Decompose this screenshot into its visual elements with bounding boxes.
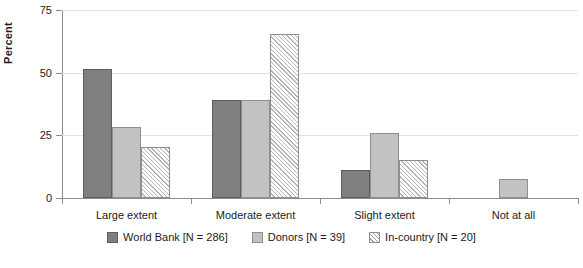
legend-label: World Bank [N = 286] (123, 231, 228, 243)
bar (83, 69, 112, 198)
x-category-label: Moderate extent (191, 209, 320, 221)
x-tick-mark (449, 198, 450, 204)
legend-label: Donors [N = 39] (268, 231, 345, 243)
x-tick-mark (320, 198, 321, 204)
bar (212, 100, 241, 198)
y-tick-label: 75 (28, 5, 52, 16)
legend-item[interactable]: World Bank [N = 286] (107, 231, 228, 243)
x-tick-mark (191, 198, 192, 204)
x-category-label: Not at all (449, 209, 578, 221)
bar (112, 127, 141, 198)
y-tick-label: 50 (28, 68, 52, 79)
legend-swatch-icon (107, 232, 118, 243)
legend-item[interactable]: In-country [N = 20] (369, 231, 476, 243)
legend-swatch-icon (252, 232, 263, 243)
y-axis-title: Percent (2, 0, 18, 88)
gridline-50 (62, 73, 578, 74)
x-category-label: Large extent (62, 209, 191, 221)
plot-area (62, 10, 578, 198)
legend-item[interactable]: Donors [N = 39] (252, 231, 345, 243)
chart-legend: World Bank [N = 286]Donors [N = 39]In-co… (0, 231, 583, 243)
legend-swatch-icon (369, 232, 380, 243)
x-tick-mark (62, 198, 63, 204)
x-tick-mark (578, 198, 579, 204)
legend-label: In-country [N = 20] (385, 231, 476, 243)
bar (270, 34, 299, 198)
bar (141, 147, 170, 198)
bar (499, 179, 528, 198)
y-tick-label: 0 (28, 193, 52, 204)
bar (341, 170, 370, 198)
bar-chart-figure: Percent 0255075 Large extentModerate ext… (0, 0, 583, 268)
x-category-label: Slight extent (320, 209, 449, 221)
bar (399, 160, 428, 198)
bar (241, 100, 270, 198)
y-tick-label: 25 (28, 130, 52, 141)
bar (370, 133, 399, 198)
gridline-75 (62, 10, 578, 11)
